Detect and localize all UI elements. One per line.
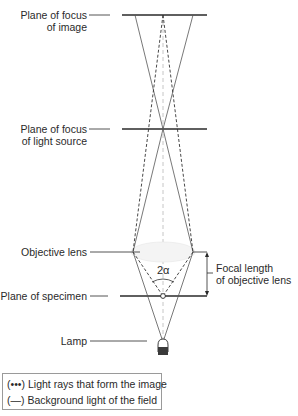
- lamp-icon: [158, 339, 168, 355]
- microscope-ray-diagram: [0, 0, 298, 416]
- label-objective-lens: Objective lens: [0, 246, 87, 258]
- label-angle: 2α: [157, 264, 169, 276]
- dashed-ray: [163, 15, 193, 252]
- label-specimen-plane: Plane of specimen: [0, 290, 87, 302]
- legend-item-dashed: (•••) Light rays that form the image: [7, 376, 157, 392]
- objective-lens-shape: [131, 242, 195, 262]
- focal-arrow-up: [205, 252, 209, 257]
- label-source-plane: Plane of focus of light source: [0, 123, 87, 147]
- label-lamp: Lamp: [0, 335, 87, 347]
- legend-item-solid: (—) Background light of the field: [7, 392, 157, 408]
- solid-ray: [163, 129, 193, 252]
- label-focal-length: Focal length of objective lens: [216, 262, 291, 286]
- solid-ray: [133, 129, 163, 252]
- specimen-point: [161, 294, 166, 299]
- solid-ray: [163, 15, 193, 129]
- dashed-ray: [133, 15, 163, 252]
- legend-solid-symbol: (—): [7, 394, 25, 406]
- legend-dashed-symbol: (•••): [7, 378, 25, 390]
- label-image-plane: Plane of focus of image: [0, 9, 87, 33]
- solid-ray: [135, 15, 163, 129]
- legend: (•••) Light rays that form the image (—)…: [2, 373, 162, 410]
